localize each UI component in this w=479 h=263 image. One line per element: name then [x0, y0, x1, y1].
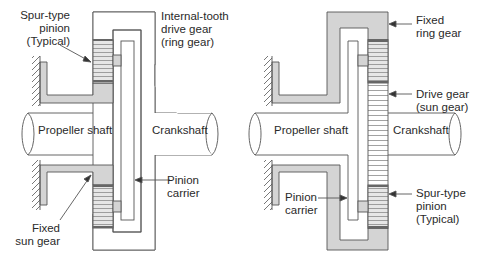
left-label-spur-pinion: Spur-typepinion(Typical) [20, 9, 70, 48]
right-label-propeller-shaft: Propeller shaft [274, 124, 348, 137]
label-line: (Typical) [27, 35, 70, 47]
right-label-drive-gear: Drive gear(sun gear) [416, 88, 469, 114]
label-line: carrier [285, 204, 318, 216]
label-line: (sun gear) [416, 101, 468, 113]
left-label-pinion-carrier: Pinioncarrier [167, 174, 200, 200]
right-label-pinion-carrier: Pinioncarrier [285, 191, 318, 217]
label-line: Spur-type [416, 187, 466, 199]
label-line: sun gear [15, 235, 60, 247]
label-line: Internal-tooth [161, 10, 229, 22]
right-label-crankshaft: Crankshaft [393, 124, 449, 137]
right-label-spur-pinion: Spur-typepinion(Typical) [416, 187, 466, 226]
label-line: carrier [167, 187, 200, 199]
label-line: Drive gear [416, 88, 469, 100]
label-line: Fixed [416, 14, 444, 26]
left-label-crankshaft: Crankshaft [152, 124, 208, 137]
label-line: pinion [39, 22, 70, 34]
label-line: Pinion [167, 174, 199, 186]
right-pinion-carrier [348, 41, 358, 220]
label-line: (Typical) [416, 213, 459, 225]
left-pinion-carrier [121, 41, 134, 220]
label-line: ring gear [416, 27, 461, 39]
left-label-sun-gear: Fixedsun gear [15, 222, 60, 248]
label-line: pinion [416, 200, 447, 212]
label-line: drive gear [161, 23, 212, 35]
label-line: (ring gear) [161, 36, 214, 48]
label-line: Spur-type [20, 9, 70, 21]
label-line: Fixed [32, 222, 60, 234]
right-label-ring-gear: Fixedring gear [416, 14, 461, 40]
left-label-ring-gear: Internal-toothdrive gear(ring gear) [161, 10, 229, 49]
left-label-propeller-shaft: Propeller shaft [38, 124, 112, 137]
label-line: Pinion [285, 191, 317, 203]
